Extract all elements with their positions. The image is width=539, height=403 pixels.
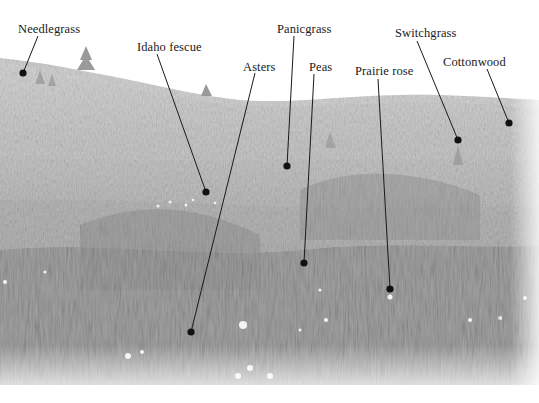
needlegrass-dot <box>19 69 26 76</box>
label-cottonwood: Cottonwood <box>443 56 506 69</box>
label-switchgrass: Switchgrass <box>395 27 457 40</box>
switchgrass-dot <box>454 136 461 143</box>
label-peas: Peas <box>309 61 332 74</box>
label-idaho-fescue: Idaho fescue <box>137 41 202 54</box>
label-panicgrass: Panicgrass <box>277 23 331 36</box>
asters-dot <box>187 328 194 335</box>
idaho-fescue-dot <box>202 188 209 195</box>
panicgrass-dot <box>283 162 290 169</box>
label-asters: Asters <box>243 61 276 74</box>
label-prairie-rose: Prairie rose <box>355 65 413 78</box>
label-needlegrass: Needlegrass <box>18 23 80 36</box>
grassland-diagram: Needlegrass Idaho fescue Asters Panicgra… <box>0 0 539 403</box>
prairie-rose-dot <box>386 285 393 292</box>
cottonwood-dot <box>505 119 512 126</box>
peas-dot <box>300 259 307 266</box>
